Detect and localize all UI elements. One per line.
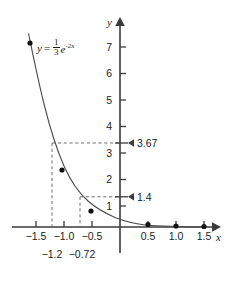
- exponential-curve: [29, 34, 207, 228]
- y-tick-label-5: 5: [98, 95, 112, 106]
- y-tick-label-7: 7: [98, 42, 112, 53]
- y-tick-label-4: 4: [98, 121, 112, 132]
- y-tick-marks: [120, 47, 126, 206]
- data-point: [88, 208, 93, 213]
- data-point: [59, 167, 64, 172]
- equation-fraction: 1 3: [53, 38, 60, 58]
- guide-arrow-3-67-icon: [128, 139, 134, 147]
- data-point: [145, 222, 150, 227]
- x-tick-label-1-0: 1.0: [161, 231, 191, 242]
- data-point: [201, 224, 206, 229]
- x-tick-label-1-5: 1.5: [189, 231, 219, 242]
- fraction-numerator: 1: [53, 38, 60, 47]
- x-tick-label-0-5: 0.5: [133, 231, 163, 242]
- data-point: [173, 223, 178, 228]
- equation-lhs: y: [37, 42, 42, 54]
- y-tick-label-3: 3: [98, 148, 112, 159]
- y-axis-arrow-icon: [115, 17, 125, 26]
- annotation-label-1-4: 1.4: [137, 192, 152, 203]
- y-tick-label-1: 1: [98, 201, 112, 212]
- data-points: [27, 40, 206, 229]
- equation-exponent: -2x: [66, 42, 75, 50]
- equation-exponential: e-2x: [61, 42, 75, 55]
- equation-label: y = 1 3 e-2x: [37, 38, 74, 58]
- exponential-decay-graph-figure: y = 1 3 e-2x 7 6 5 4 3 2 1 3.67 1.4 −1.5…: [0, 0, 230, 283]
- equation-equals: =: [44, 42, 50, 54]
- data-point: [27, 40, 32, 45]
- below-axis-label-neg-0-72: −0.72: [60, 249, 104, 260]
- annotation-label-3-67: 3.67: [137, 138, 157, 149]
- y-axis-label: y: [107, 17, 112, 28]
- fraction-denominator: 3: [53, 47, 60, 57]
- y-tick-label-6: 6: [98, 68, 112, 79]
- guide-arrow-1-4-icon: [128, 193, 134, 201]
- x-axis-label: x: [216, 232, 221, 243]
- x-tick-label-neg-0-5: −0.5: [75, 231, 109, 242]
- y-tick-label-2: 2: [98, 174, 112, 185]
